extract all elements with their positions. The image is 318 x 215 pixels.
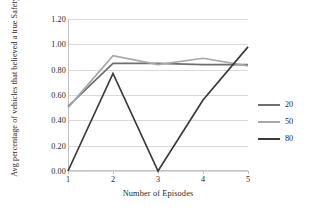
y-tick-label: 0.40 xyxy=(30,116,66,125)
y-tick-label: 0.20 xyxy=(30,141,66,150)
y-tick-label: 0.80 xyxy=(30,65,66,74)
x-tick-label: 4 xyxy=(193,175,213,184)
chart-legend: 205080 xyxy=(258,96,316,147)
y-tick-label: 1.20 xyxy=(30,15,66,24)
y-axis-title: Avg percentage of vehicles that believed… xyxy=(10,9,20,177)
x-axis-tick-labels: 12345 xyxy=(68,0,248,215)
legend-swatch-50 xyxy=(258,121,280,123)
y-tick-label: 0.60 xyxy=(30,91,66,100)
legend-label: 50 xyxy=(285,117,293,126)
legend-item-20[interactable]: 20 xyxy=(258,96,316,113)
legend-swatch-20 xyxy=(258,104,280,106)
x-tick-label: 3 xyxy=(148,175,168,184)
legend-item-80[interactable]: 80 xyxy=(258,130,316,147)
x-tick-label: 2 xyxy=(103,175,123,184)
x-axis-title: Number of Episodes xyxy=(48,189,268,198)
y-tick-label: 1.00 xyxy=(30,40,66,49)
legend-label: 20 xyxy=(285,100,293,109)
legend-swatch-80 xyxy=(258,138,280,140)
x-tickmark xyxy=(248,171,249,174)
legend-label: 80 xyxy=(285,134,293,143)
line-chart-figure: Avg percentage of vehicles that believed… xyxy=(0,0,318,215)
legend-item-50[interactable]: 50 xyxy=(258,113,316,130)
x-tick-label: 5 xyxy=(238,175,258,184)
x-tick-label: 1 xyxy=(58,175,78,184)
